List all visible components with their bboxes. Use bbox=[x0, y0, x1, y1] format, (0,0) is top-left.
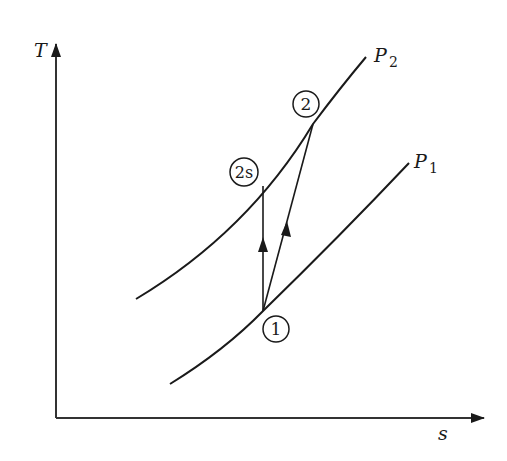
process-1-2 bbox=[263, 124, 313, 311]
y-axis-label: T bbox=[34, 39, 48, 61]
isobar-p1-subscript: 1 bbox=[429, 160, 438, 176]
isobar-p2-subscript: 2 bbox=[389, 54, 398, 70]
state-1: 1 bbox=[263, 316, 289, 342]
actual-process-line bbox=[263, 124, 313, 311]
axes: T s bbox=[34, 39, 484, 444]
x-axis-label: s bbox=[438, 422, 448, 444]
isobar-p1-label: P bbox=[413, 150, 428, 172]
state-1-label: 1 bbox=[271, 319, 282, 339]
state-2s-label: 2s bbox=[235, 163, 253, 182]
isobar-p2: P 2 bbox=[136, 44, 398, 299]
state-2-label: 2 bbox=[301, 94, 312, 114]
isobar-p1-curve bbox=[170, 163, 409, 384]
ts-diagram: T s P 2 P 1 2s 2 1 bbox=[0, 0, 507, 461]
isobar-p1: P 1 bbox=[170, 150, 438, 384]
isobar-p2-label: P bbox=[373, 44, 388, 66]
state-2: 2 bbox=[293, 91, 319, 117]
process-1-2s bbox=[258, 186, 268, 311]
arrow-up-icon bbox=[258, 237, 268, 252]
state-2s: 2s bbox=[230, 158, 258, 186]
arrow-up-icon bbox=[281, 221, 291, 237]
